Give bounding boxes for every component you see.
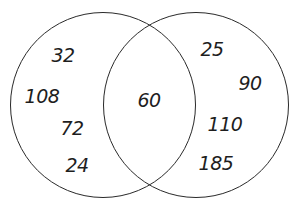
intersection-value: 60 — [137, 91, 160, 110]
right-circle — [103, 12, 289, 198]
left-value-4: 24 — [65, 156, 88, 175]
left-value-1: 32 — [51, 46, 74, 65]
left-value-3: 72 — [60, 119, 83, 138]
right-value-1: 25 — [200, 40, 223, 59]
right-value-2: 90 — [238, 74, 261, 93]
venn-diagram: 32 108 72 24 60 25 90 110 185 — [0, 0, 292, 210]
right-value-4: 185 — [199, 154, 234, 173]
left-value-2: 108 — [25, 87, 60, 106]
right-value-3: 110 — [208, 115, 243, 134]
